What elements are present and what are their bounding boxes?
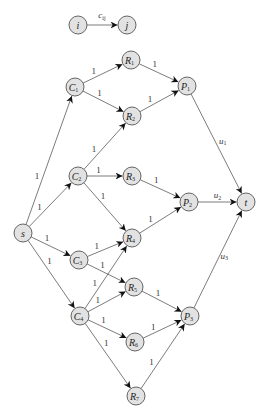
flow-network-diagram: ijcij 1111111111111111111111u1u2u3 sC1C2… <box>0 0 271 414</box>
edge-label-C2-R3: 1 <box>96 165 101 175</box>
edge-label-C3-R4: 1 <box>95 241 100 251</box>
node-s: s <box>14 224 32 242</box>
node-C4: C4 <box>71 307 89 325</box>
legend-node-j: j <box>118 16 136 34</box>
edge-C4-R7 <box>85 323 130 388</box>
edge-label-C4-R5: 1 <box>95 295 100 305</box>
edge-label-C2-R4: 1 <box>101 191 106 201</box>
node-s-label: s <box>21 228 25 239</box>
edge-label-s-C1: 1 <box>35 171 40 181</box>
node-R3: R3 <box>123 167 141 185</box>
legend-node-i: i <box>69 16 87 34</box>
edge-label-s-C3: 1 <box>45 233 50 243</box>
edge-R4-P2 <box>140 207 181 233</box>
node-R2: R2 <box>123 107 141 125</box>
node-R1: R1 <box>122 51 140 69</box>
edge-P1-t <box>191 94 242 194</box>
edge-R6-P3 <box>143 320 181 338</box>
edge-label-R7-P3: 1 <box>149 357 154 367</box>
node-R4: R4 <box>123 229 141 247</box>
node-t: t <box>237 193 255 211</box>
node-P1: P1 <box>178 77 196 95</box>
edge-s-C2 <box>29 183 71 227</box>
legend-node-i-label: i <box>77 20 80 31</box>
edge-C4-R5 <box>88 291 126 311</box>
edge-P3-t <box>194 211 242 308</box>
edge-label-R4-P2: 1 <box>148 214 153 224</box>
edge-s-C4 <box>28 240 75 308</box>
edge-R7-P3 <box>141 324 185 389</box>
edge-label-P1-t: u1 <box>219 136 227 147</box>
edge-C3-R4 <box>87 242 123 257</box>
edge-label-C4-R7: 1 <box>104 338 109 348</box>
edge-s-C1 <box>26 96 72 225</box>
edge-C1-R2 <box>83 91 124 112</box>
nodes-layer: sC1C2C3C4R1R2R3R4R5R6R7P1P2P3t <box>14 51 255 405</box>
edge-R2-P1 <box>140 91 179 112</box>
edge-label-s-C4: 1 <box>47 256 52 266</box>
edge-label-C4-R4: 1 <box>93 278 98 288</box>
edge-label-C4-R6: 1 <box>101 315 106 325</box>
edge-C2-R2 <box>84 123 126 169</box>
node-P2: P2 <box>180 193 198 211</box>
node-R5: R5 <box>125 278 143 296</box>
edge-R3-P2 <box>140 180 180 198</box>
edge-label-R5-P3: 1 <box>156 288 161 298</box>
edge-C4-R4 <box>85 246 127 309</box>
legend-edge-example: ijcij <box>69 10 136 34</box>
node-R6: R6 <box>126 333 144 351</box>
edge-C1-R1 <box>83 64 122 83</box>
edge-label-P3-t: u3 <box>221 251 229 262</box>
edge-label-R6-P3: 1 <box>151 322 156 332</box>
edge-label-C1-R1: 1 <box>91 66 96 76</box>
edge-label-P2-t: u2 <box>214 190 222 201</box>
edge-label-C1-R2: 1 <box>97 88 102 98</box>
edge-label-R1-P1: 1 <box>153 59 158 69</box>
node-R7: R7 <box>127 387 145 405</box>
edge-label-C2-R2: 1 <box>92 144 97 154</box>
legend-edge-label: cij <box>98 10 106 21</box>
edge-R5-P3 <box>142 291 182 311</box>
node-t-label: t <box>245 197 248 208</box>
edge-R1-P1 <box>139 64 178 82</box>
node-P3: P3 <box>181 307 199 325</box>
node-C1: C1 <box>66 78 84 96</box>
edge-label-R2-P1: 1 <box>148 94 153 104</box>
node-C2: C2 <box>69 167 87 185</box>
node-C3: C3 <box>70 251 88 269</box>
edge-label-s-C2: 1 <box>37 202 42 212</box>
edge-label-C3-R5: 1 <box>100 260 105 270</box>
edge-label-R3-P2: 1 <box>154 175 159 185</box>
